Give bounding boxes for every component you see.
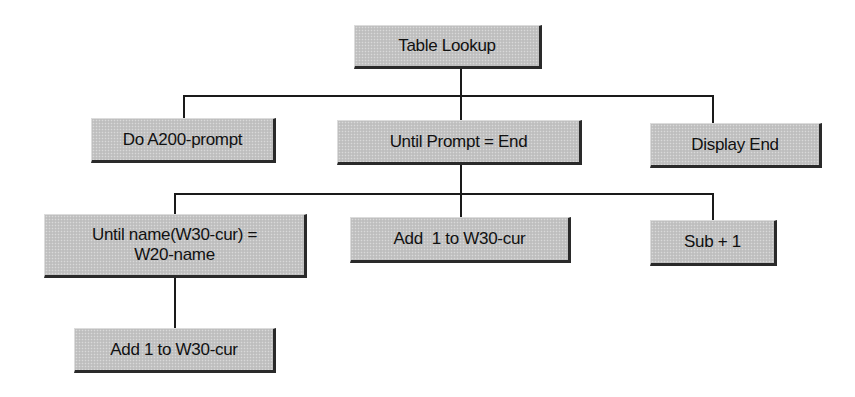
node-sub-plus-1[interactable]: Sub + 1	[650, 220, 777, 266]
node-table-lookup[interactable]: Table Lookup	[354, 25, 542, 69]
node-label: Add 1 to W30-cur	[110, 340, 237, 360]
connector-root-trunk	[460, 68, 462, 97]
node-label: Sub + 1	[684, 232, 741, 252]
node-label: Until Prompt = End	[390, 132, 528, 152]
connector-level2-bus	[174, 193, 714, 195]
connector-until-prompt-trunk	[460, 164, 462, 195]
connector-to-sub-1	[712, 193, 714, 221]
connector-to-until-name	[174, 193, 176, 215]
node-label: Do A200-prompt	[123, 130, 243, 150]
node-add-1-to-w30-cur-bottom[interactable]: Add 1 to W30-cur	[74, 328, 276, 373]
node-display-end[interactable]: Display End	[650, 123, 822, 168]
node-label-line2: W20-name	[134, 245, 215, 265]
node-add-1-to-w30-cur-mid[interactable]: Add 1 to W30-cur	[350, 217, 571, 263]
connector-until-name-to-add-1	[174, 277, 176, 329]
node-label: Add 1 to W30-cur	[394, 229, 526, 249]
node-label-line1: Until name(W30-cur) =	[92, 225, 257, 245]
connector-to-display-end	[712, 95, 714, 124]
node-until-name-w30-cur[interactable]: Until name(W30-cur) = W20-name	[44, 214, 307, 278]
node-until-prompt-end[interactable]: Until Prompt = End	[337, 120, 582, 165]
connector-to-do-a200	[183, 95, 185, 119]
node-label: Display End	[691, 135, 778, 155]
node-do-a200-prompt[interactable]: Do A200-prompt	[91, 118, 276, 163]
structure-chart: Table Lookup Do A200-prompt Until Prompt…	[0, 0, 855, 397]
connector-to-until-prompt	[460, 95, 462, 121]
connector-level1-bus	[183, 95, 714, 97]
connector-to-add-1-mid	[460, 193, 462, 218]
node-label: Table Lookup	[398, 36, 496, 56]
